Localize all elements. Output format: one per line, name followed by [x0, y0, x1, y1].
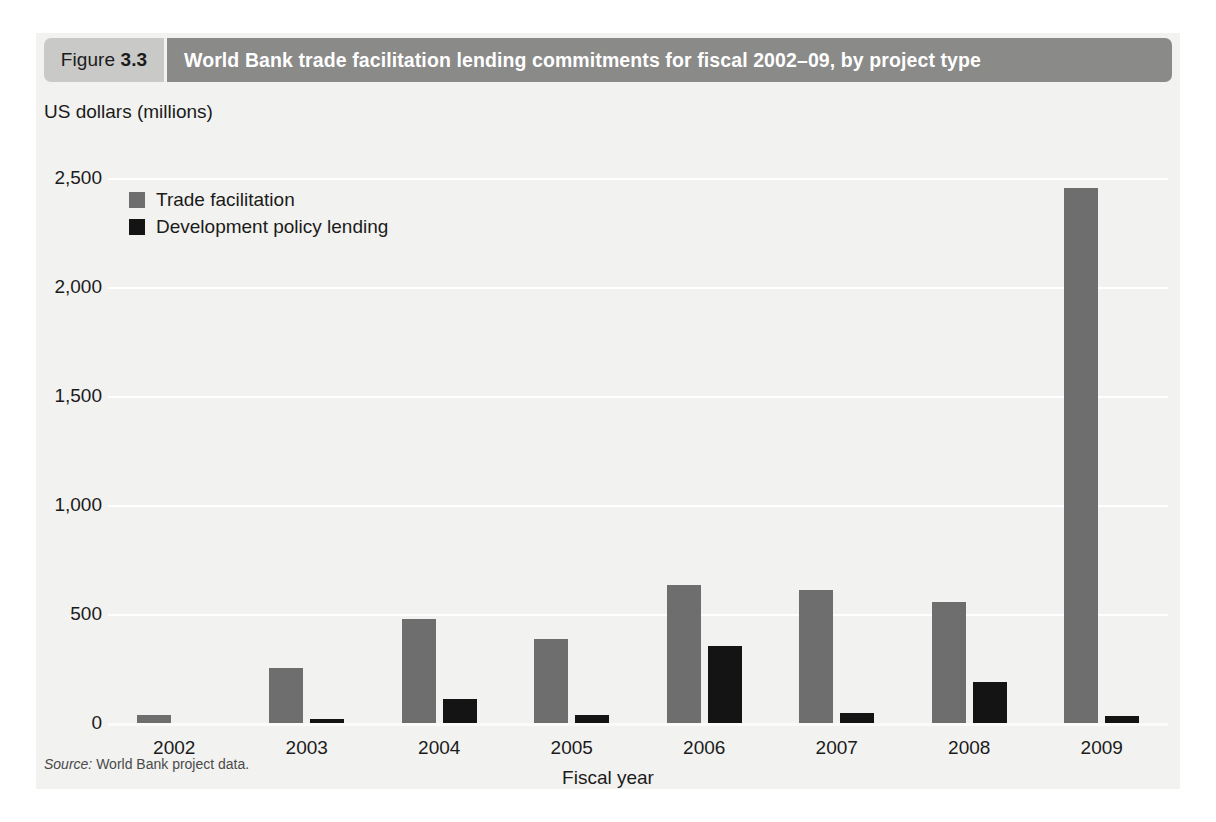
gridline — [108, 178, 1168, 180]
figure-title: World Bank trade facilitation lending co… — [184, 49, 981, 72]
figure-number-box: Figure 3.3 — [44, 38, 164, 82]
figure-number-value: 3.3 — [121, 49, 148, 70]
bar-2003-trade-facilitation — [269, 668, 303, 723]
y-axis-tick-label: 500 — [36, 603, 102, 625]
gridline — [108, 614, 1168, 616]
bar-2002-trade-facilitation — [137, 715, 171, 723]
x-axis-tick-label: 2006 — [683, 737, 725, 759]
legend-label: Trade facilitation — [156, 189, 295, 211]
x-axis-tick-label: 2005 — [551, 737, 593, 759]
legend-swatch-icon — [129, 192, 145, 208]
legend-label: Development policy lending — [156, 216, 388, 238]
y-axis-tick-label: 0 — [36, 712, 102, 734]
chart-legend: Trade facilitationDevelopment policy len… — [129, 186, 388, 240]
figure-panel: Figure 3.3 World Bank trade facilitation… — [36, 33, 1180, 789]
figure-number-prefix: Figure — [61, 49, 115, 70]
bar-2009-trade-facilitation — [1064, 188, 1098, 723]
bar-2007-development-policy-lending — [840, 713, 874, 723]
x-axis-tick-label: 2008 — [948, 737, 990, 759]
x-axis-tick-label: 2004 — [418, 737, 460, 759]
x-axis-tick-label: 2007 — [816, 737, 858, 759]
figure-number-label: Figure 3.3 — [61, 49, 148, 71]
legend-item: Trade facilitation — [129, 186, 388, 213]
y-axis-tick-label: 2,000 — [36, 276, 102, 298]
bar-2006-development-policy-lending — [708, 646, 742, 723]
bar-2008-trade-facilitation — [932, 602, 966, 723]
bar-2004-trade-facilitation — [402, 619, 436, 723]
bar-2005-trade-facilitation — [534, 639, 568, 723]
legend-swatch-icon — [129, 219, 145, 235]
bar-2005-development-policy-lending — [575, 715, 609, 723]
bar-2009-development-policy-lending — [1105, 716, 1139, 723]
figure-header: Figure 3.3 World Bank trade facilitation… — [36, 38, 1180, 82]
source-label: Source: — [44, 756, 92, 772]
gridline — [108, 505, 1168, 507]
gridline — [108, 396, 1168, 398]
bar-2003-development-policy-lending — [310, 719, 344, 723]
bar-2008-development-policy-lending — [973, 682, 1007, 723]
legend-item: Development policy lending — [129, 213, 388, 240]
bar-2006-trade-facilitation — [667, 585, 701, 723]
source-value: World Bank project data. — [96, 756, 249, 772]
y-axis-tick-label: 1,500 — [36, 385, 102, 407]
x-axis-baseline — [108, 723, 1168, 726]
y-axis-tick-label: 1,000 — [36, 494, 102, 516]
bar-2007-trade-facilitation — [799, 590, 833, 723]
figure-title-bar: World Bank trade facilitation lending co… — [167, 38, 1172, 82]
gridline — [108, 287, 1168, 289]
y-axis-tick-label: 2,500 — [36, 167, 102, 189]
x-axis-tick-label: 2003 — [286, 737, 328, 759]
bar-2004-development-policy-lending — [443, 699, 477, 723]
source-note: Source: World Bank project data. — [44, 756, 249, 772]
x-axis-tick-label: 2009 — [1081, 737, 1123, 759]
